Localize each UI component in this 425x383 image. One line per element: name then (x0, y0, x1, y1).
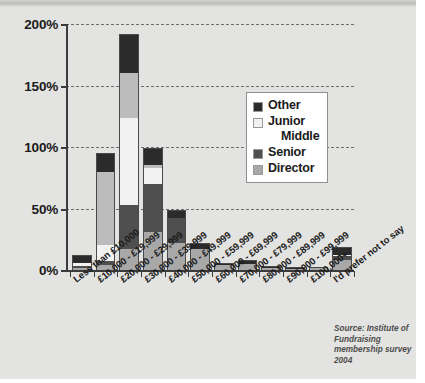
bar-segment-other (96, 153, 115, 171)
page-bottom-edge (0, 379, 425, 383)
page-top-edge (0, 0, 425, 7)
bar-segment-junior (119, 73, 138, 117)
y-axis-tick (61, 209, 67, 211)
y-axis-tick (61, 24, 67, 26)
bar-segment-senior (143, 184, 162, 232)
y-axis-label: 100% (24, 140, 58, 155)
bar-segment-other (119, 34, 138, 73)
source-note: Source: Institute of Fundraising members… (334, 324, 420, 366)
bar-segment-junior-middle (143, 168, 162, 184)
x-axis-tick (354, 271, 355, 277)
y-axis-tick (61, 270, 67, 272)
y-axis-tick (61, 147, 67, 149)
chart-page: 0%50%100%150%200% Less than £10,000£10,0… (0, 0, 425, 383)
legend-label-senior: Senior (268, 145, 306, 160)
bar-segment-other (167, 210, 186, 219)
legend-item-other: Other (253, 98, 319, 113)
gridline (66, 86, 354, 87)
gridline (66, 24, 354, 25)
legend-item-junior-middle: JuniorMiddle (253, 114, 319, 144)
legend-item-senior: Senior (253, 145, 319, 160)
legend-label-junior: Junior (268, 114, 305, 128)
y-axis-label: 50% (32, 201, 58, 216)
legend-label-director: Director (268, 161, 314, 176)
y-axis-label: 150% (24, 78, 58, 93)
legend: Other JuniorMiddle Senior Director (246, 92, 328, 183)
y-axis-label: 0% (39, 263, 58, 278)
legend-swatch-senior (253, 149, 263, 159)
legend-label-middle: Middle (268, 129, 319, 144)
y-axis-label: 200% (24, 17, 58, 32)
legend-swatch-other (253, 102, 263, 112)
legend-label-other: Other (268, 98, 300, 113)
legend-swatch-director (253, 165, 263, 175)
y-axis-tick (61, 86, 67, 88)
bar-segment-other (143, 148, 162, 165)
legend-label-junior-middle: JuniorMiddle (268, 114, 319, 144)
bar-segment-junior (96, 172, 115, 246)
bar-segment-junior-middle (119, 118, 138, 205)
legend-item-director: Director (253, 161, 319, 176)
legend-swatch-junior-middle (253, 118, 263, 128)
